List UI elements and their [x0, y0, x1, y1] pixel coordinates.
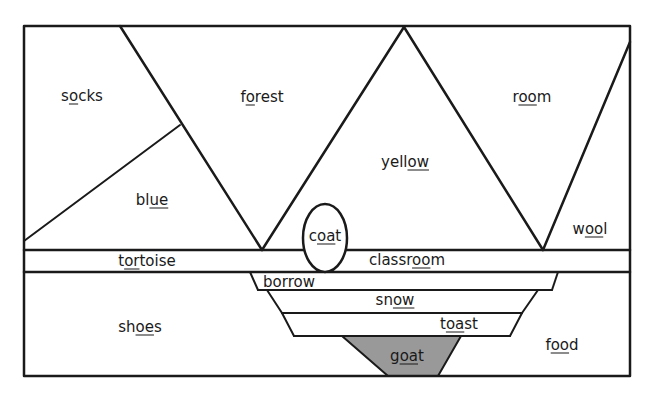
word-toast: toast	[440, 317, 478, 332]
word-coat: coat	[309, 229, 342, 244]
word-socks: socks	[61, 89, 103, 104]
word-room: room	[513, 90, 552, 105]
outer-frame	[24, 26, 630, 376]
word-yellow: yellow	[381, 155, 429, 170]
word-snow: snow	[376, 293, 415, 308]
word-forest: forest	[240, 90, 283, 105]
word-borrow: borrow	[263, 275, 315, 290]
word-blue: blue	[136, 193, 168, 208]
word-food: food	[545, 338, 578, 353]
word-classroom: classroom	[369, 253, 445, 268]
word-shoes: shoes	[118, 320, 162, 335]
word-tortoise: tortoise	[118, 254, 176, 269]
word-wool: wool	[573, 222, 608, 237]
word-goat: goat	[390, 349, 424, 364]
